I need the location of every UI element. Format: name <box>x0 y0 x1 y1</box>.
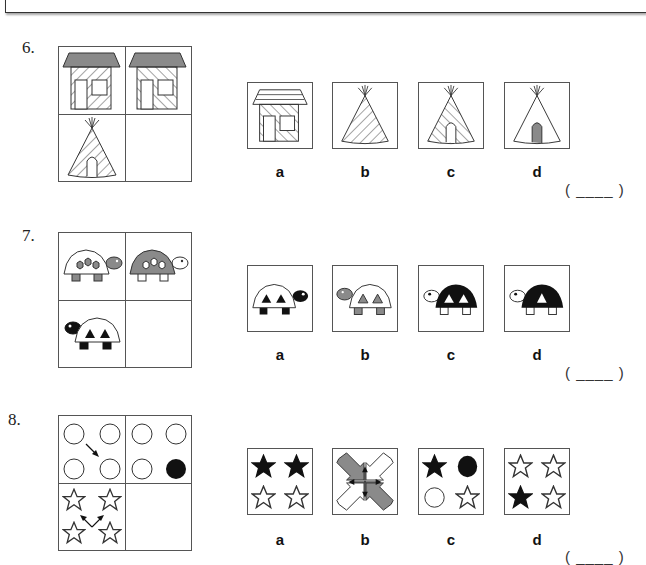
question-number: 8. <box>8 410 21 430</box>
option-7a[interactable] <box>247 265 313 332</box>
option-6a[interactable] <box>247 82 313 149</box>
option-label: b <box>332 163 398 180</box>
option-6c[interactable] <box>418 82 484 149</box>
option-label: d <box>504 346 570 363</box>
option-label: a <box>247 346 313 363</box>
option-7b[interactable] <box>332 265 398 332</box>
option-8b[interactable] <box>332 448 398 515</box>
option-label: b <box>332 346 398 363</box>
option-6b[interactable] <box>332 82 398 149</box>
option-8c[interactable] <box>418 448 484 515</box>
puzzle-matrix <box>58 232 192 368</box>
puzzle-matrix <box>58 46 192 182</box>
option-label: b <box>332 531 398 548</box>
house-forward-hatch-figure <box>59 47 125 114</box>
option-6d[interactable] <box>504 82 570 149</box>
option-label: c <box>418 531 484 548</box>
stars-arrows-figure <box>59 483 125 550</box>
option-7d[interactable] <box>504 265 570 332</box>
answer-blank[interactable]: ( ____ ) <box>565 181 625 198</box>
answer-blank[interactable]: ( ____ ) <box>565 364 625 381</box>
option-label: c <box>418 163 484 180</box>
option-8a[interactable] <box>247 448 313 515</box>
option-label: a <box>247 163 313 180</box>
option-label: d <box>504 531 570 548</box>
house-back-hatch-figure <box>125 47 191 114</box>
circles-one-black-figure <box>125 416 191 483</box>
top-frame-border <box>5 0 646 13</box>
turtle-white-black-tri-figure <box>59 300 125 367</box>
option-label: d <box>504 163 570 180</box>
option-7c[interactable] <box>418 265 484 332</box>
tepee-forward-hatch-figure <box>59 114 125 181</box>
turtle-gray-white-hex-figure <box>125 233 191 300</box>
question-number: 7. <box>22 226 35 246</box>
puzzle-matrix <box>58 415 192 551</box>
answer-blank[interactable]: ( ____ ) <box>565 548 625 565</box>
turtle-white-gray-hex-figure <box>59 233 125 300</box>
option-label: a <box>247 531 313 548</box>
option-label: c <box>418 346 484 363</box>
option-8d[interactable] <box>504 448 570 515</box>
circles-arrow-figure <box>59 416 125 483</box>
question-number: 6. <box>22 38 35 58</box>
